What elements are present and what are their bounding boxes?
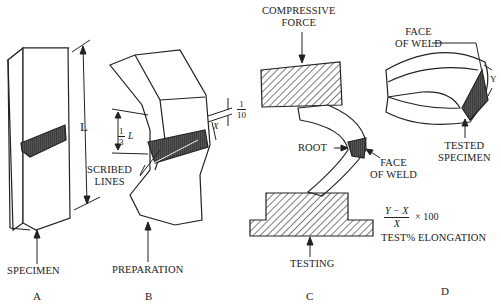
face-label-d-line1: FACE — [405, 26, 431, 37]
tested-label-line2: SPECIMEN — [438, 152, 491, 163]
panel-letter-d: D — [441, 285, 449, 297]
preparation-arrow — [145, 222, 151, 262]
prepared-specimen — [110, 50, 210, 225]
y-dimension-label: Y — [490, 73, 497, 85]
testing-arrow — [307, 237, 313, 257]
formula-multiplier: × 100 — [415, 211, 439, 223]
scribed-label-line2: LINES — [94, 176, 124, 187]
testing-caption: TESTING — [290, 258, 334, 270]
formula-numerator: Y − X — [384, 205, 409, 218]
length-label: L — [80, 121, 88, 133]
preparation-caption: PREPARATION — [112, 264, 183, 276]
force-label-line1: COMPRESSIVE — [262, 5, 335, 16]
root-arrow — [334, 145, 348, 151]
one-third-fraction: 1 3 — [118, 126, 125, 147]
one-tenth-numerator: 1 — [237, 99, 246, 110]
lower-press-block — [250, 193, 373, 236]
elongation-caption: TEST% ELONGATION — [381, 232, 486, 244]
face-label-c-line2: OF WELD — [370, 169, 417, 180]
formula-denominator: X — [384, 218, 409, 230]
face-label-c-line1: FACE — [380, 157, 406, 168]
one-tenth-fraction: 1 10 — [237, 99, 246, 120]
scribed-label-line1: SCRIBED — [87, 164, 132, 175]
one-third-denominator: 3 — [118, 137, 125, 147]
face-of-weld-label-d: FACE OF WELD — [395, 26, 442, 50]
one-third-numerator: 1 — [118, 126, 125, 137]
one-third-length-var: L — [128, 130, 134, 142]
force-label-line2: FORCE — [282, 17, 316, 28]
specimen-caption: SPECIMEN — [7, 265, 60, 277]
root-label: ROOT — [298, 142, 327, 154]
compressive-force-label: COMPRESSIVE FORCE — [262, 5, 335, 29]
elongation-formula-fraction: Y − X X — [384, 205, 409, 230]
panel-letter-c: C — [306, 290, 313, 302]
specimen-arrow — [34, 230, 40, 264]
tested-specimen-label: TESTED SPECIMEN — [438, 140, 491, 164]
tested-specimen — [386, 53, 488, 125]
panel-letter-b: B — [145, 290, 152, 302]
tested-label-line1: TESTED — [445, 140, 485, 151]
one-tenth-denominator: 10 — [237, 110, 246, 120]
upper-press-block — [261, 62, 342, 107]
force-arrow — [299, 32, 305, 63]
specimen-bar — [8, 48, 70, 230]
face-label-d-line2: OF WELD — [395, 38, 442, 49]
x-dimension-label: X — [213, 120, 219, 132]
scribed-lines-label: SCRIBED LINES — [87, 164, 132, 188]
panel-letter-a: A — [33, 290, 41, 302]
face-of-weld-label-c: FACE OF WELD — [370, 157, 417, 181]
